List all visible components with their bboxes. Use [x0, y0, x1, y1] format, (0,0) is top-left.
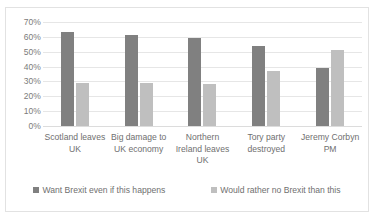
legend-item[interactable]: Would rather no Brexit than this [211, 186, 340, 195]
y-axis: 70%60%50%40%30%20%10%0% [6, 22, 41, 126]
y-axis-tick-label: 30% [6, 77, 41, 86]
bar[interactable] [61, 32, 74, 126]
axis-baseline [43, 126, 362, 127]
chart-container: 70%60%50%40%30%20%10%0% Scotland leaves … [5, 7, 369, 212]
bar[interactable] [331, 50, 344, 126]
x-axis-tick-label: Scotland leaves UK [43, 132, 107, 178]
bar[interactable] [316, 68, 329, 126]
bar[interactable] [203, 84, 216, 126]
bar-group [43, 22, 107, 126]
x-axis-tick-label: Northern Ireland leaves UK [171, 132, 235, 178]
legend-swatch-icon [33, 187, 39, 193]
bar-group [107, 22, 171, 126]
bar[interactable] [76, 83, 89, 126]
x-axis-category-labels: Scotland leaves UKBig damage to UK econo… [43, 132, 362, 178]
chart-legend: Want Brexit even if this happensWould ra… [6, 180, 368, 200]
bar[interactable] [267, 71, 280, 126]
x-axis-tick-label: Tory party destroyed [234, 132, 298, 178]
legend-label: Want Brexit even if this happens [42, 186, 165, 195]
y-axis-tick-label: 60% [6, 33, 41, 42]
legend-swatch-icon [211, 187, 217, 193]
y-axis-tick-label: 0% [6, 122, 41, 131]
y-axis-tick-label: 70% [6, 18, 41, 27]
y-axis-tick-label: 10% [6, 107, 41, 116]
legend-label: Would rather no Brexit than this [220, 186, 340, 195]
bar-groups [43, 22, 362, 126]
bar[interactable] [252, 46, 265, 126]
bar-group [171, 22, 235, 126]
bar[interactable] [140, 83, 153, 126]
x-axis-tick-label: Jeremy Corbyn PM [298, 132, 362, 178]
y-axis-tick-label: 40% [6, 62, 41, 71]
bar[interactable] [125, 35, 138, 126]
y-axis-tick-label: 50% [6, 47, 41, 56]
x-axis-tick-label: Big damage to UK economy [107, 132, 171, 178]
plot-area: 70%60%50%40%30%20%10%0% [6, 8, 368, 130]
bar[interactable] [188, 38, 201, 126]
bar-group [234, 22, 298, 126]
legend-item[interactable]: Want Brexit even if this happens [33, 186, 165, 195]
bar-group [298, 22, 362, 126]
y-axis-tick-label: 20% [6, 92, 41, 101]
